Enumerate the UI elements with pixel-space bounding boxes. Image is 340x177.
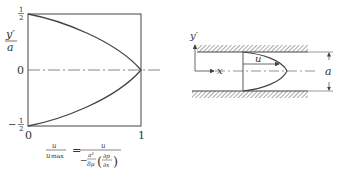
top-wall-hatch	[197, 45, 308, 52]
svg-text:∂p: ∂p	[103, 152, 110, 160]
y-prime-axis-label: y′	[189, 30, 199, 41]
bottom-wall-hatch	[192, 91, 308, 98]
channel-flow-diagram: a u y′ x	[189, 30, 333, 98]
y-axis-label: y′ a	[5, 28, 17, 54]
svg-text:∂x: ∂x	[103, 161, 110, 168]
x-tick-zero: 0	[25, 129, 32, 142]
velocity-label: u	[255, 53, 261, 64]
channel-velocity-profile	[243, 52, 287, 91]
svg-text:a²: a²	[88, 151, 95, 158]
y-tick-bottom: − 1 2	[8, 117, 24, 133]
svg-text:): )	[113, 154, 118, 169]
x-axis-formula: u u max = u − a² 8μ ( ∂p ∂x )	[46, 142, 121, 169]
x-axis-label: x	[217, 65, 223, 76]
svg-text:u: u	[101, 142, 106, 150]
y-tick-top: 1 2	[18, 6, 24, 22]
svg-text:u: u	[52, 142, 57, 150]
svg-text:−: −	[8, 119, 16, 130]
gap-label: a	[325, 65, 332, 78]
velocity-profile-plot: 1 2 0 − 1 2 y′ a 0 1 u u max = u	[5, 6, 163, 169]
svg-text:max: max	[51, 152, 64, 159]
svg-text:2: 2	[19, 125, 23, 133]
svg-text:8μ: 8μ	[87, 160, 95, 168]
svg-text:2: 2	[19, 14, 23, 22]
y-tick-zero: 0	[17, 64, 24, 77]
svg-text:(: (	[97, 154, 102, 169]
svg-text:1: 1	[19, 117, 23, 125]
svg-text:a: a	[7, 41, 14, 54]
x-tick-one: 1	[138, 129, 145, 142]
svg-text:1: 1	[19, 6, 23, 14]
svg-text:y′: y′	[5, 28, 15, 41]
